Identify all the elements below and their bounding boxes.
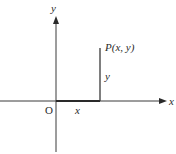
horizontal-segment-label: x <box>74 104 80 116</box>
y-axis-arrow-icon <box>53 16 59 24</box>
y-axis-label: y <box>50 2 56 14</box>
origin-label: O <box>45 104 53 116</box>
x-axis-label: x <box>168 95 174 107</box>
point-label: P(x, y) <box>104 41 135 54</box>
x-axis-arrow-icon <box>159 98 167 104</box>
vertical-segment-label: y <box>104 70 110 82</box>
coordinate-diagram: y x O P(x, y) y x <box>0 0 176 154</box>
